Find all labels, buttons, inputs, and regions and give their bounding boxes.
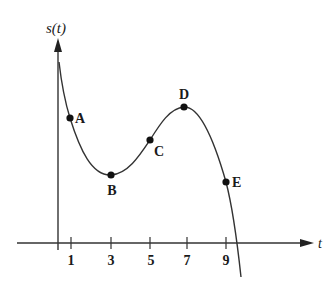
- position-graph: s(t) t 1 3 5 7 9 A B C D E: [0, 0, 327, 287]
- point-d-label: D: [179, 87, 189, 102]
- tick-label-9: 9: [223, 253, 230, 268]
- point-a-marker: [66, 114, 73, 121]
- tick-label-3: 3: [108, 253, 115, 268]
- x-axis-arrow-icon: [300, 239, 314, 247]
- point-b-label: B: [107, 183, 116, 198]
- point-c-label: C: [154, 144, 164, 159]
- y-axis-arrow-icon: [54, 38, 62, 52]
- y-axis-label: s(t): [46, 20, 66, 37]
- point-c-marker: [146, 136, 153, 143]
- x-axis-label: t: [318, 236, 323, 251]
- point-b-marker: [107, 171, 114, 178]
- point-e-marker: [222, 178, 229, 185]
- tick-label-1: 1: [68, 253, 75, 268]
- tick-label-7: 7: [184, 253, 191, 268]
- point-e-label: E: [232, 175, 241, 190]
- point-a-label: A: [75, 111, 86, 126]
- tick-label-5: 5: [148, 253, 155, 268]
- point-d-marker: [180, 103, 187, 110]
